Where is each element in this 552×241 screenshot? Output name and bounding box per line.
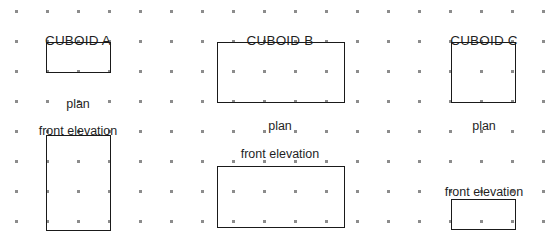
grid-dot <box>294 10 297 13</box>
grid-dot <box>418 100 421 103</box>
shape-rect-plan <box>451 42 516 103</box>
grid-dot <box>170 220 173 223</box>
grid-dot <box>387 10 390 13</box>
grid-dot <box>387 190 390 193</box>
grid-dot <box>170 190 173 193</box>
grid-dot <box>542 100 545 103</box>
grid-dot <box>15 10 18 13</box>
grid-dot <box>170 160 173 163</box>
grid-dot <box>15 70 18 73</box>
grid-dot <box>263 10 266 13</box>
grid-dot <box>449 160 452 163</box>
grid-dot <box>542 160 545 163</box>
grid-dot <box>542 190 545 193</box>
grid-dot <box>387 220 390 223</box>
grid-dot <box>387 40 390 43</box>
grid-dot <box>356 10 359 13</box>
grid-dot <box>46 100 49 103</box>
grid-dot <box>139 40 142 43</box>
grid-dot <box>201 130 204 133</box>
grid-dot <box>418 220 421 223</box>
grid-dot <box>263 130 266 133</box>
grid-dot <box>139 10 142 13</box>
grid-dot <box>232 160 235 163</box>
grid-dot <box>108 100 111 103</box>
grid-dot <box>325 160 328 163</box>
grid-dot <box>170 130 173 133</box>
grid-dot <box>325 130 328 133</box>
grid-dot <box>232 130 235 133</box>
grid-dot <box>356 100 359 103</box>
grid-dot <box>449 130 452 133</box>
shape-rect-front-elevation <box>46 135 111 231</box>
grid-dot <box>294 130 297 133</box>
grid-dot <box>15 190 18 193</box>
worksheet-page: CUBOID Aplanfront elevationCUBOID Bplanf… <box>0 0 552 241</box>
shape-rect-front-elevation <box>217 166 345 228</box>
grid-dot <box>542 220 545 223</box>
grid-dot <box>139 160 142 163</box>
grid-dot <box>387 100 390 103</box>
grid-dot <box>325 10 328 13</box>
grid-dot <box>139 70 142 73</box>
grid-dot <box>511 160 514 163</box>
grid-dot <box>418 10 421 13</box>
grid-dot <box>108 10 111 13</box>
grid-dot <box>201 190 204 193</box>
grid-dot <box>77 10 80 13</box>
shape-rect-front-elevation <box>451 199 516 230</box>
grid-dot <box>542 10 545 13</box>
grid-dot <box>449 10 452 13</box>
grid-dot <box>201 100 204 103</box>
grid-dot <box>542 40 545 43</box>
grid-dot <box>139 130 142 133</box>
grid-dot <box>542 130 545 133</box>
grid-dot <box>15 40 18 43</box>
grid-dot <box>356 220 359 223</box>
view-label-front-elevation: front elevation <box>241 148 320 161</box>
grid-dot <box>418 160 421 163</box>
grid-dot <box>139 190 142 193</box>
grid-dot <box>201 40 204 43</box>
grid-dot <box>15 160 18 163</box>
grid-dot <box>356 160 359 163</box>
grid-dot <box>356 70 359 73</box>
grid-dot <box>170 10 173 13</box>
grid-dot <box>46 10 49 13</box>
grid-dot <box>542 70 545 73</box>
shape-rect-plan <box>217 42 345 103</box>
grid-dot <box>15 100 18 103</box>
grid-dot <box>418 70 421 73</box>
grid-dot <box>201 160 204 163</box>
grid-dot <box>139 220 142 223</box>
view-label-plan: plan <box>66 98 90 111</box>
grid-dot <box>170 100 173 103</box>
grid-dot <box>170 70 173 73</box>
view-label-front-elevation: front elevation <box>39 125 118 138</box>
grid-dot <box>139 100 142 103</box>
grid-dot <box>511 10 514 13</box>
grid-dot <box>232 10 235 13</box>
grid-dot <box>418 190 421 193</box>
view-label-plan: plan <box>268 120 292 133</box>
grid-dot <box>15 130 18 133</box>
grid-dot <box>201 10 204 13</box>
grid-dot <box>356 130 359 133</box>
grid-dot <box>201 70 204 73</box>
grid-dot <box>387 130 390 133</box>
grid-dot <box>511 130 514 133</box>
grid-dot <box>387 70 390 73</box>
grid-dot <box>356 190 359 193</box>
grid-dot <box>418 130 421 133</box>
grid-dot <box>480 10 483 13</box>
grid-dot <box>480 160 483 163</box>
grid-dot <box>387 160 390 163</box>
grid-dot <box>356 40 359 43</box>
grid-dot <box>170 40 173 43</box>
shape-rect-plan <box>46 42 111 73</box>
grid-dot <box>15 220 18 223</box>
view-label-plan: plan <box>472 120 496 133</box>
grid-dot <box>418 40 421 43</box>
grid-dot <box>201 220 204 223</box>
view-label-front-elevation: front elevation <box>445 186 524 199</box>
